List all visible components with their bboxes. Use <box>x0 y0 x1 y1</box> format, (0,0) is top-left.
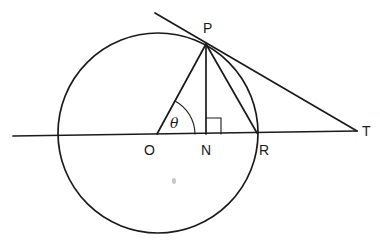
label-N: N <box>201 142 211 158</box>
label-theta: θ <box>170 115 179 131</box>
label-T: T <box>362 123 371 139</box>
label-O: O <box>144 142 155 158</box>
segment-OP <box>157 44 206 134</box>
scan-smudge <box>172 178 176 184</box>
right-angle-marker <box>206 118 221 134</box>
horizontal-line <box>13 131 357 136</box>
geometry-diagram: P O N R T θ <box>0 0 380 242</box>
label-P: P <box>203 20 212 36</box>
label-R: R <box>259 142 269 158</box>
